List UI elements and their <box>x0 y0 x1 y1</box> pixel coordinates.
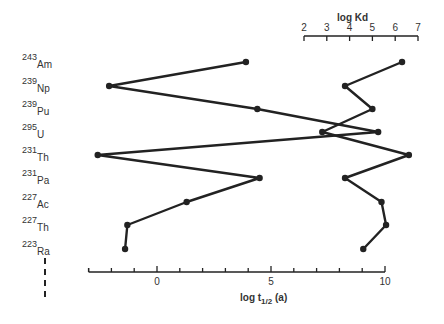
data-point <box>369 106 375 112</box>
data-point <box>256 175 262 181</box>
isotope-label: 243Am <box>22 52 52 70</box>
isotope-label: 223Ra <box>22 239 50 257</box>
data-point <box>360 246 366 252</box>
bottom-axis <box>89 266 385 272</box>
series-log-kd <box>319 59 412 252</box>
data-point <box>106 83 112 89</box>
data-point <box>342 83 348 89</box>
data-point <box>378 199 384 205</box>
bottom-tick-label: 5 <box>268 276 274 287</box>
top-tick-label: 5 <box>370 22 376 33</box>
data-point <box>254 106 260 112</box>
isotope-label: 231Pa <box>22 168 49 186</box>
top-tick-label: 7 <box>415 22 421 33</box>
data-point <box>342 175 348 181</box>
top-axis <box>304 36 418 41</box>
bottom-axis-title: log t1/2 (a) <box>240 292 287 306</box>
data-point <box>122 246 128 252</box>
isotope-label: 239Np <box>22 76 50 94</box>
data-point <box>375 129 381 135</box>
top-tick-label: 6 <box>392 22 398 33</box>
data-point <box>95 152 101 158</box>
bottom-tick-label: 0 <box>154 276 160 287</box>
data-point <box>243 59 249 65</box>
data-point <box>383 222 389 228</box>
isotope-label: 295U <box>22 122 44 140</box>
series-log-half-life <box>95 59 382 252</box>
chart-canvas <box>0 0 444 324</box>
top-tick-label: 4 <box>347 22 353 33</box>
data-point <box>183 199 189 205</box>
isotope-label: 227Th <box>22 215 49 233</box>
data-point <box>406 152 412 158</box>
data-point <box>124 222 130 228</box>
data-point <box>319 129 325 135</box>
data-point <box>399 59 405 65</box>
top-tick-label: 2 <box>301 22 307 33</box>
top-tick-label: 3 <box>324 22 330 33</box>
bottom-tick-label: 10 <box>379 276 390 287</box>
isotope-label: 231Th <box>22 145 49 163</box>
isotope-label: 227Ac <box>22 192 49 210</box>
top-axis-title: log Kd <box>337 12 368 23</box>
isotope-label: 239Pu <box>22 99 49 117</box>
